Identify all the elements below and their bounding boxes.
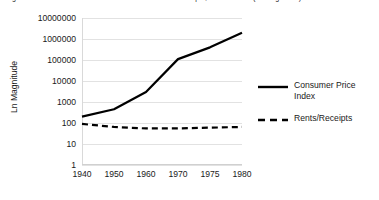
chart-title: Figure 4. Growth in Consumer Price Index… xyxy=(6,0,376,3)
solid-line-icon xyxy=(258,81,288,93)
legend-label: Consumer Price Index xyxy=(294,80,372,102)
y-axis-tick-label: 100 xyxy=(8,119,76,128)
y-axis-tick-label: 1000000 xyxy=(8,35,76,44)
y-axis-tick-label: 1000 xyxy=(8,98,76,107)
y-axis-tick-label: 10000 xyxy=(8,77,76,86)
series-lines xyxy=(82,18,242,165)
chart-legend: Consumer Price IndexRents/Receipts xyxy=(258,80,376,137)
x-axis-tick-label: 1970 xyxy=(161,170,195,179)
chart-container: Figure 4. Growth in Consumer Price Index… xyxy=(0,0,379,200)
gridline xyxy=(82,165,242,166)
y-axis-tick-label: 100000 xyxy=(8,56,76,65)
x-axis-tick-label: 1950 xyxy=(97,170,131,179)
x-axis-tick-labels: 194019501960197019751980 xyxy=(82,170,244,184)
legend-label: Rents/Receipts xyxy=(294,113,352,124)
dashed-line-icon xyxy=(258,114,288,126)
legend-entry[interactable]: Consumer Price Index xyxy=(258,80,376,102)
x-axis-tick-label: 1960 xyxy=(129,170,163,179)
x-axis-tick-label: 1940 xyxy=(65,170,99,179)
y-axis-tick-label: 10000000 xyxy=(8,14,76,23)
x-axis-tick-label: 1975 xyxy=(193,170,227,179)
y-axis-tick-label: 10 xyxy=(8,140,76,149)
series-line xyxy=(82,33,242,117)
plot-area xyxy=(82,18,242,165)
y-axis-tick-labels: 100000001000000100000100001000100101 xyxy=(8,13,76,169)
series-line xyxy=(82,124,242,128)
y-axis-tick-label: 1 xyxy=(8,161,76,170)
x-axis-tick-label: 1980 xyxy=(225,170,259,179)
legend-entry[interactable]: Rents/Receipts xyxy=(258,113,376,126)
